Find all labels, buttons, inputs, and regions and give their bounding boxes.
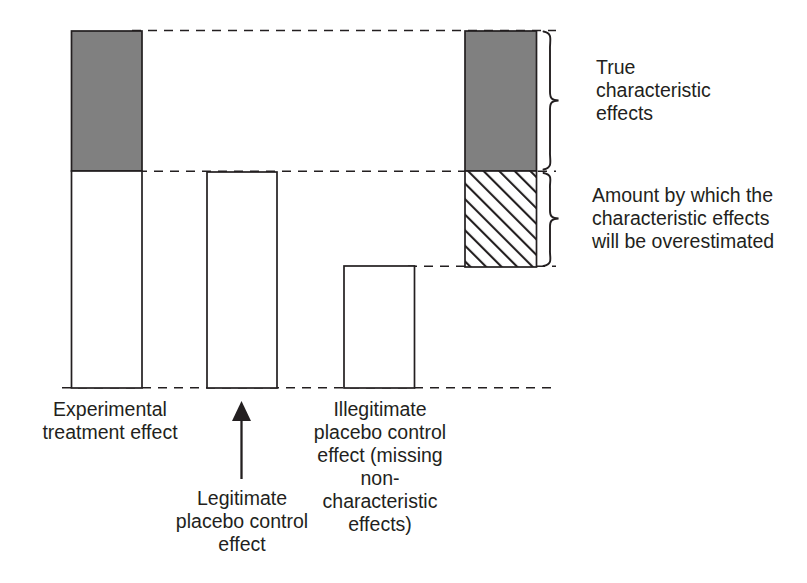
bar-overestimate-segment-overestimation	[465, 171, 537, 267]
bar-experimental	[72, 31, 143, 388]
brace-overestimation-amount	[544, 173, 559, 266]
bar-illegitimate-segment	[344, 266, 415, 388]
label-experimental-treatment-effect: Experimental treatment effect	[6, 398, 214, 444]
bar-legitimate	[207, 172, 277, 388]
arrow-head-icon	[232, 401, 251, 421]
bar-experimental-segment-non-characteristic	[72, 171, 143, 388]
arrow-to-legitimate-bar	[232, 401, 251, 479]
bar-legitimate-segment	[207, 172, 277, 388]
label-amount-overestimated: Amount by which the characteristic effec…	[592, 184, 806, 253]
bar-overestimate-segment-true-characteristic	[465, 31, 537, 171]
label-true-characteristic-effects: True characteristic effects	[596, 56, 801, 125]
figure-canvas: Experimental treatment effect Legitimate…	[0, 0, 807, 583]
label-illegitimate-placebo-control-effect: Illegitimate placebo control effect (mis…	[306, 398, 454, 536]
bar-experimental-segment-true-characteristic	[72, 31, 143, 171]
bar-overestimate	[465, 31, 537, 267]
brace-true-characteristic-effects	[544, 32, 559, 170]
bar-illegitimate	[344, 266, 415, 388]
